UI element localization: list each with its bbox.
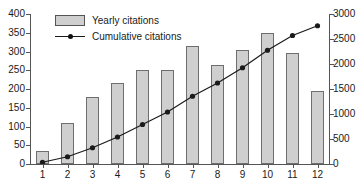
x-axis-tick-label: 6 bbox=[165, 170, 171, 180]
y-axis-left-tick-label: 250 bbox=[8, 65, 25, 75]
x-axis-tick-label: 8 bbox=[215, 170, 221, 180]
legend-item-cumulative-citations: Cumulative citations bbox=[55, 30, 205, 44]
citations-chart: 050100150200250300350400 050010001500200… bbox=[0, 0, 362, 190]
line-marker bbox=[240, 65, 245, 70]
line-marker bbox=[115, 134, 120, 139]
legend-line-marker-icon bbox=[68, 34, 73, 39]
line-marker bbox=[140, 122, 145, 127]
x-axis-tick-label: 4 bbox=[115, 170, 121, 180]
x-axis-tick bbox=[68, 164, 69, 168]
x-axis-tick-label: 5 bbox=[140, 170, 146, 180]
y-axis-left-tick-label: 350 bbox=[8, 28, 25, 38]
x-axis-tick bbox=[318, 164, 319, 168]
x-axis-tick bbox=[243, 164, 244, 168]
line-marker bbox=[265, 48, 270, 53]
y-axis-right-tick-label: 2500 bbox=[333, 34, 355, 44]
x-axis-tick bbox=[143, 164, 144, 168]
x-axis-tick bbox=[93, 164, 94, 168]
x-axis-tick bbox=[118, 164, 119, 168]
y-axis-left-tick-label: 200 bbox=[8, 84, 25, 94]
y-axis-right-tick-label: 500 bbox=[333, 134, 350, 144]
line-marker bbox=[40, 160, 45, 164]
line-marker bbox=[90, 145, 95, 150]
cumulative-line-path bbox=[43, 26, 318, 163]
y-axis-right-tick bbox=[330, 39, 334, 40]
y-axis-right-tick bbox=[330, 64, 334, 65]
legend-bar-swatch-icon bbox=[55, 15, 85, 26]
x-axis-tick-label: 11 bbox=[287, 170, 297, 180]
y-axis-left-tick-label: 400 bbox=[8, 9, 25, 19]
x-axis-tick-label: 7 bbox=[190, 170, 196, 180]
y-axis-left-tick-label: 150 bbox=[8, 103, 25, 113]
y-axis-left-labels: 050100150200250300350400 bbox=[0, 0, 25, 190]
x-axis-tick-label: 9 bbox=[240, 170, 246, 180]
y-axis-left-tick-label: 300 bbox=[8, 47, 25, 57]
x-axis-tick-label: 2 bbox=[65, 170, 71, 180]
line-marker bbox=[165, 109, 170, 114]
y-axis-right-tick bbox=[330, 89, 334, 90]
x-axis-labels: 123456789101112 bbox=[0, 168, 362, 188]
y-axis-right-tick-label: 3000 bbox=[333, 9, 355, 19]
x-axis-tick bbox=[193, 164, 194, 168]
y-axis-left-tick-label: 100 bbox=[8, 122, 25, 132]
line-marker bbox=[65, 154, 70, 159]
x-axis-tick bbox=[43, 164, 44, 168]
y-axis-right-tick-label: 2000 bbox=[333, 59, 355, 69]
line-marker bbox=[290, 33, 295, 38]
x-axis-tick-label: 3 bbox=[90, 170, 96, 180]
y-axis-right-tick-label: 1000 bbox=[333, 109, 355, 119]
line-marker bbox=[190, 94, 195, 99]
y-axis-left-tick-label: 50 bbox=[14, 140, 25, 150]
legend-item-yearly-citations: Yearly citations bbox=[55, 14, 205, 28]
x-axis-tick bbox=[168, 164, 169, 168]
line-marker bbox=[215, 80, 220, 85]
y-axis-left-tick bbox=[26, 164, 30, 165]
y-axis-right-tick bbox=[330, 114, 334, 115]
x-axis-tick bbox=[293, 164, 294, 168]
chart-legend: Yearly citations Cumulative citations bbox=[55, 14, 205, 46]
x-axis-tick bbox=[218, 164, 219, 168]
line-marker bbox=[315, 23, 320, 28]
x-axis-tick-label: 12 bbox=[312, 170, 323, 180]
x-axis-tick bbox=[268, 164, 269, 168]
x-axis-tick-label: 1 bbox=[40, 170, 46, 180]
y-axis-right-tick bbox=[330, 14, 334, 15]
legend-label-cumulative-citations: Cumulative citations bbox=[92, 31, 181, 43]
axis-bottom-spine bbox=[30, 164, 330, 165]
legend-label-yearly-citations: Yearly citations bbox=[92, 15, 159, 27]
y-axis-right-labels: 050010001500200025003000 bbox=[333, 0, 362, 190]
x-axis-tick-label: 10 bbox=[262, 170, 273, 180]
y-axis-right-tick-label: 1500 bbox=[333, 84, 355, 94]
y-axis-right-tick bbox=[330, 164, 334, 165]
y-axis-right-tick bbox=[330, 139, 334, 140]
